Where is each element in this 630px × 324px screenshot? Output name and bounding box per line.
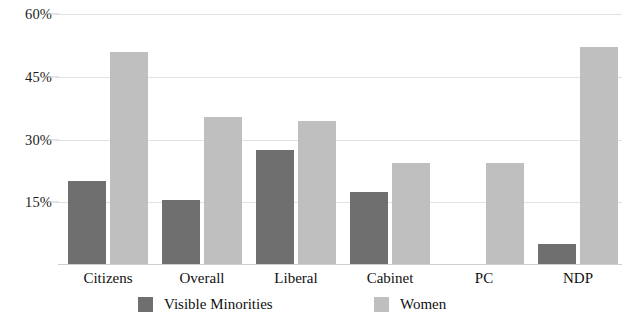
y-axis-tick-mark: [48, 14, 59, 15]
legend-swatch-icon: [138, 297, 153, 312]
bar-chart: 15%30%45%60% CitizensOverallLiberalCabin…: [0, 0, 630, 324]
x-axis-tick-label: Overall: [180, 268, 225, 288]
x-axis-tick-label: PC: [475, 268, 493, 288]
x-axis-tick-label: Liberal: [274, 268, 317, 288]
bar: [204, 117, 242, 266]
x-axis-line: [58, 264, 622, 265]
legend-label: Visible Minorities: [164, 295, 273, 313]
gridline: [58, 14, 622, 15]
x-axis-tick-label: Citizens: [83, 268, 132, 288]
bar: [256, 150, 294, 265]
legend-swatch-icon: [374, 297, 389, 312]
legend-item[interactable]: Visible Minorities: [138, 294, 273, 314]
y-axis-tick-label: 45%: [0, 70, 52, 85]
bar: [486, 163, 524, 265]
bar: [110, 52, 148, 265]
legend: Visible MinoritiesWomen: [0, 294, 630, 320]
y-axis-tick-mark: [48, 76, 59, 77]
y-axis-tick-label: 30%: [0, 132, 52, 147]
legend-item[interactable]: Women: [374, 294, 446, 314]
x-axis-tick-label: NDP: [563, 268, 593, 288]
y-axis-tick-label: 60%: [0, 7, 52, 22]
y-axis-tick-mark: [48, 139, 59, 140]
bar: [538, 244, 576, 265]
x-axis-tick-label: Cabinet: [367, 268, 414, 288]
x-axis-tick-labels: CitizensOverallLiberalCabinetPCNDP: [58, 268, 622, 292]
y-axis-tick-label: 15%: [0, 195, 52, 210]
bar: [298, 121, 336, 265]
legend-label: Women: [400, 295, 446, 313]
plot-area: [58, 14, 622, 265]
bar: [68, 181, 106, 265]
bar: [162, 200, 200, 265]
bar: [350, 192, 388, 265]
bar: [392, 163, 430, 265]
y-axis-tick-mark: [48, 202, 59, 203]
bar: [580, 47, 618, 265]
